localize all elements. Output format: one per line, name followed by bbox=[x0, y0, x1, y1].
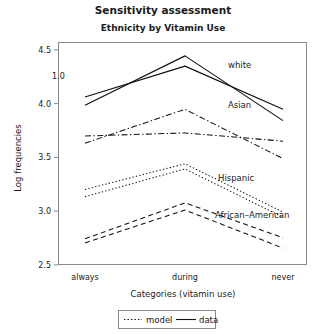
plot-annotation-1-0: 1.0 bbox=[52, 72, 65, 81]
legend-label-model[interactable]: model bbox=[146, 315, 172, 325]
series-label-african-american: African–American bbox=[215, 210, 289, 220]
series-label-hispanic: Hispanic bbox=[218, 173, 255, 183]
y-tick-label: 4.0 bbox=[38, 100, 51, 109]
x-tick-label-during: during bbox=[172, 273, 198, 282]
y-axis-label: Log frequencies bbox=[13, 124, 23, 192]
x-tick-label-never: never bbox=[272, 273, 296, 282]
y-tick-label: 4.5 bbox=[38, 46, 51, 55]
y-tick-label: 3.5 bbox=[38, 153, 51, 162]
y-tick-label: 2.5 bbox=[38, 261, 51, 270]
chart-subtitle: Ethnicity by Vitamin Use bbox=[101, 23, 226, 33]
chart-title: Sensitivity assessment bbox=[95, 4, 231, 16]
series-label-white: white bbox=[228, 60, 251, 70]
x-tick-label-always: always bbox=[71, 273, 98, 282]
legend-label-data[interactable]: data bbox=[199, 315, 218, 325]
series-label-asian: Asian bbox=[228, 100, 251, 110]
sensitivity-assessment-chart: Sensitivity assessment Ethnicity by Vita… bbox=[0, 0, 327, 334]
y-tick-label: 3.0 bbox=[38, 207, 51, 216]
x-axis-label: Categories (vitamin use) bbox=[131, 289, 236, 299]
